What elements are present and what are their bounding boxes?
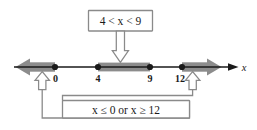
point-marker-4 xyxy=(95,64,101,70)
point-marker-9 xyxy=(147,64,153,70)
axis-label: x xyxy=(241,62,247,73)
bottom-callout-text: x ≤ 0 or x ≥ 12 xyxy=(92,104,160,116)
figure-canvas: 4 < x < 9 x xyxy=(0,0,257,130)
down-arrow-icon xyxy=(112,31,128,62)
point-marker-0 xyxy=(52,64,58,70)
axis-arrowhead-icon xyxy=(228,63,239,71)
tick-label-4: 4 xyxy=(96,73,101,84)
tick-label-9: 9 xyxy=(148,73,153,84)
point-marker-12 xyxy=(179,64,185,70)
connector-inner-bracket xyxy=(63,90,193,101)
tick-label-12: 12 xyxy=(175,73,185,84)
up-arrow-right-icon xyxy=(185,72,200,90)
tick-label-0: 0 xyxy=(53,73,58,84)
top-callout-group: 4 < x < 9 xyxy=(89,11,153,32)
bottom-callout-group: x ≤ 0 or x ≥ 12 xyxy=(63,101,190,119)
inequality-number-line-diagram: 4 < x < 9 x xyxy=(0,0,257,130)
up-arrow-left-icon xyxy=(35,72,50,90)
top-callout-text: 4 < x < 9 xyxy=(100,15,142,27)
